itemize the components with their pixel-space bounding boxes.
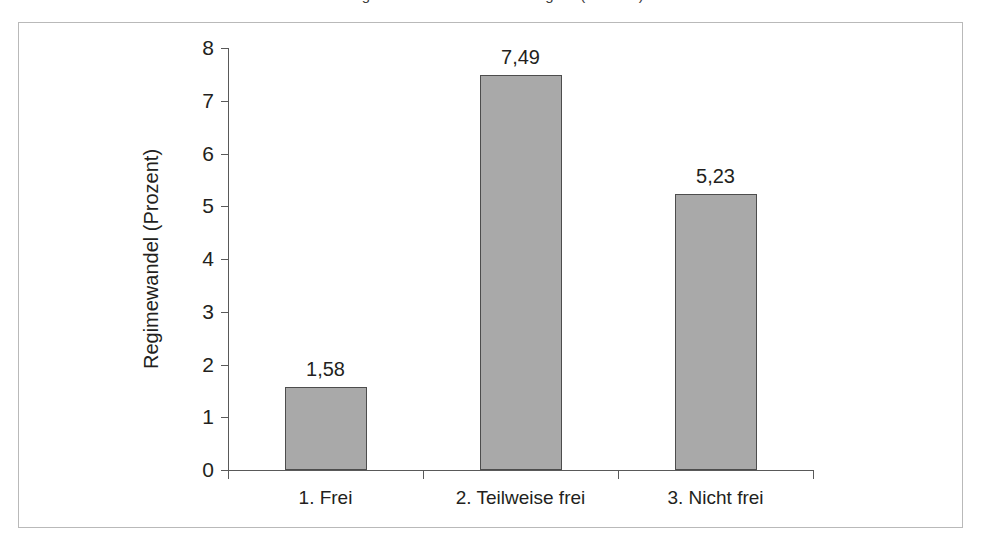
- y-axis-tick-label: 7: [174, 90, 214, 111]
- y-axis-tick-label: 1: [174, 406, 214, 427]
- y-axis-tick: [221, 101, 229, 102]
- y-axis-tick-label: 8: [174, 37, 214, 58]
- y-axis-tick: [221, 259, 229, 260]
- bar-value-label: 5,23: [656, 166, 776, 186]
- y-axis-tick-label: 6: [174, 143, 214, 164]
- y-axis-tick-label: 2: [174, 354, 214, 375]
- bar: [285, 387, 367, 470]
- bar: [675, 194, 757, 470]
- bar-chart-plot-area: 012345678 1,587,495,23 1. Frei2. Teilwei…: [0, 0, 986, 546]
- bar-value-label: 1,58: [266, 359, 386, 379]
- y-axis-tick: [221, 154, 229, 155]
- y-axis-tick: [221, 417, 229, 418]
- y-axis-title: Regimewandel (Prozent): [141, 149, 161, 369]
- y-axis-tick-label: 0: [174, 459, 214, 480]
- bar: [480, 75, 562, 470]
- x-axis-line: [228, 470, 813, 471]
- x-axis-tick: [423, 470, 424, 479]
- y-axis-tick: [221, 206, 229, 207]
- bar-value-label: 7,49: [461, 47, 581, 67]
- x-axis-category-label: 2. Teilweise frei: [411, 487, 631, 509]
- x-axis-category-label: 3. Nicht frei: [606, 487, 826, 509]
- y-axis-tick: [221, 48, 229, 49]
- y-axis-tick-label: 5: [174, 195, 214, 216]
- x-axis-tick: [813, 470, 814, 479]
- y-axis-tick: [221, 365, 229, 366]
- y-axis-tick: [221, 312, 229, 313]
- y-axis-tick-label: 4: [174, 248, 214, 269]
- x-axis-tick: [618, 470, 619, 479]
- y-axis-tick-label: 3: [174, 301, 214, 322]
- x-axis-category-label: 1. Frei: [216, 487, 436, 509]
- x-axis-tick: [228, 470, 229, 479]
